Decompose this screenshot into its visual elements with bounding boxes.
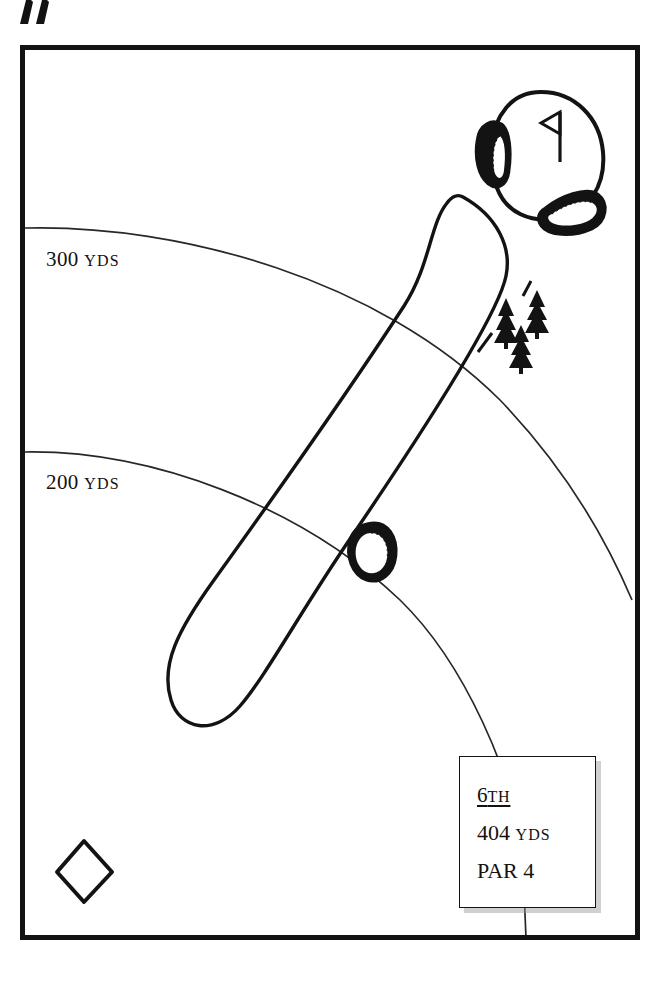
hole-distance-line: 404 YDS: [477, 822, 595, 844]
hole-number-value: 6: [477, 783, 488, 807]
hole-par-line: PAR 4: [477, 860, 595, 882]
hole-par-value: 4: [523, 858, 534, 883]
hole-distance-value: 404: [477, 820, 510, 845]
yardage-200-unit: YDS: [84, 475, 119, 492]
hole-par-word: PAR: [477, 858, 518, 883]
yardage-label-200: 200 YDS: [46, 470, 120, 495]
hole-number-line: 6TH: [477, 785, 595, 806]
yardage-300-number: 300: [46, 247, 79, 271]
north-arrow-icon: [14, 0, 60, 34]
hole-info-box: 6TH 404 YDS PAR 4: [459, 756, 596, 908]
hole-diagram-page: 300 YDS 200 YDS 6TH 404 YDS PAR 4: [0, 0, 668, 984]
hole-distance-unit: YDS: [516, 826, 551, 843]
yardage-300-unit: YDS: [84, 252, 119, 269]
hole-number-ordinal: TH: [488, 788, 511, 805]
hole-number: 6TH: [477, 785, 510, 806]
yardage-label-300: 300 YDS: [46, 247, 120, 272]
yardage-200-number: 200: [46, 470, 79, 494]
